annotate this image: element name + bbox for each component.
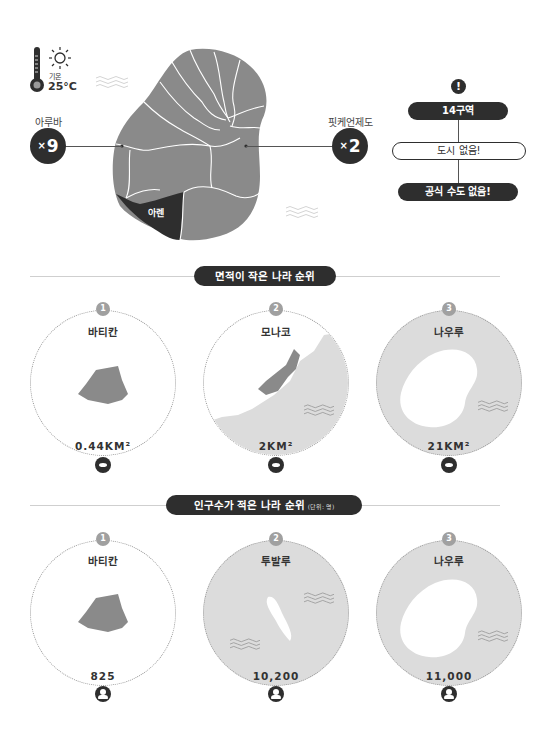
vatican-shape [78, 594, 130, 636]
rank-badge: 3 [442, 302, 456, 316]
temperature-value: 25°C [48, 80, 77, 93]
area-ranking-title: 면적이 작은 나라 순위 [194, 266, 336, 286]
area-value: 21KM² [399, 440, 499, 452]
waves-icon [478, 400, 508, 414]
nauru-district-map: 아렌 [110, 46, 290, 242]
unit-note: (단위: 명) [308, 503, 335, 510]
waves-icon [304, 404, 334, 418]
connector-line-right [246, 146, 332, 147]
rank-badge: 1 [96, 532, 110, 546]
comparison-name: 핏케언제도 [320, 114, 380, 129]
fact-districts: 14구역 [408, 102, 508, 120]
comparison-name: 아루바 [26, 114, 70, 129]
fact-no-capital: 공식 수도 없음! [398, 183, 518, 201]
area-shape-icon [268, 457, 284, 473]
sun-icon [48, 46, 72, 70]
population-value: 11,000 [399, 670, 499, 682]
thermometer-icon [30, 46, 44, 94]
connector-line-left [64, 146, 122, 147]
population-value: 10,200 [226, 670, 326, 682]
area-value: 2KM² [226, 440, 326, 452]
comparison-multiplier-badge: ×2 [332, 128, 368, 164]
vatican-shape [78, 366, 130, 408]
country-name: 모나코 [226, 324, 326, 339]
area-value: 0.44KM² [53, 440, 153, 452]
rank-badge: 3 [442, 532, 456, 546]
waves-icon [478, 630, 508, 644]
person-icon [268, 686, 284, 702]
rank-badge: 1 [96, 302, 110, 316]
exclamation-icon: ! [451, 79, 466, 94]
area-shape-icon [95, 457, 111, 473]
country-name: 나우루 [399, 324, 499, 339]
comparison-multiplier-badge: ×9 [30, 128, 66, 164]
waves-icon [230, 638, 260, 652]
person-icon [441, 686, 457, 702]
country-name: 바티칸 [53, 324, 153, 339]
area-shape-icon [441, 457, 457, 473]
person-icon [95, 686, 111, 702]
population-ranking-title: 인구수가 적은 나라 순위(단위: 명) [166, 495, 362, 515]
weather-widget: 기온 25°C [28, 44, 88, 99]
rank-badge: 2 [269, 532, 283, 546]
population-value: 825 [53, 670, 153, 682]
highlighted-region-label: 아렌 [148, 207, 164, 218]
country-name: 바티칸 [53, 553, 153, 568]
country-name: 나우루 [399, 553, 499, 568]
waves-icon [286, 206, 318, 220]
waves-icon [304, 592, 334, 606]
rank-badge: 2 [269, 302, 283, 316]
fact-no-cities: 도시 없음! [392, 142, 526, 160]
country-name: 투발루 [226, 553, 326, 568]
